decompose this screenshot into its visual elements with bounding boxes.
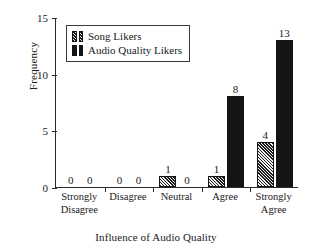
legend-label-song-likers: Song Likers bbox=[88, 30, 141, 43]
legend-swatch-icon-audio-quality-likers bbox=[72, 45, 84, 56]
y-tick-label: 5 bbox=[18, 125, 52, 137]
bar-value-label: 0 bbox=[62, 174, 79, 186]
legend-label-audio-quality-likers: Audio Quality Likers bbox=[88, 44, 182, 57]
bar bbox=[208, 176, 225, 187]
plot-area: 00001018413 Song Likers Audio Quality Li… bbox=[55, 18, 298, 188]
legend-swatch-icon-song-likers bbox=[72, 31, 84, 42]
x-tick-label: StronglyAgree bbox=[241, 191, 306, 216]
bar-value-label: 13 bbox=[276, 27, 293, 39]
y-tick-mark bbox=[52, 75, 57, 76]
bar-value-label: 0 bbox=[130, 174, 147, 186]
x-axis-tick-labels: StronglyDisagreeDisagreeNeutralAgreeStro… bbox=[55, 191, 298, 225]
bar-value-label: 8 bbox=[227, 83, 244, 95]
bar-value-label: 0 bbox=[178, 174, 195, 186]
y-tick-mark bbox=[52, 18, 57, 19]
y-tick-label: 10 bbox=[18, 69, 52, 81]
bar-group: 18 bbox=[202, 18, 251, 187]
bar-value-label: 1 bbox=[159, 163, 176, 175]
legend-item-song-likers: Song Likers bbox=[72, 29, 182, 43]
bar-group: 413 bbox=[250, 18, 299, 187]
y-tick-label: 15 bbox=[18, 12, 52, 24]
bar-value-label: 1 bbox=[208, 163, 225, 175]
bar bbox=[227, 96, 244, 187]
y-tick-mark bbox=[52, 131, 57, 132]
legend-item-audio-quality-likers: Audio Quality Likers bbox=[72, 43, 182, 57]
bar-value-label: 0 bbox=[81, 174, 98, 186]
chart-legend: Song Likers Audio Quality Likers bbox=[66, 25, 190, 62]
bar-chart-figure: Frequency 051015 00001018413 Song Likers… bbox=[0, 0, 312, 252]
x-axis-title: Influence of Audio Quality bbox=[0, 231, 312, 243]
bar bbox=[276, 40, 293, 187]
bar bbox=[257, 142, 274, 187]
bar-value-label: 0 bbox=[111, 174, 128, 186]
bar-value-label: 4 bbox=[257, 129, 274, 141]
y-tick-mark bbox=[52, 188, 57, 189]
bar bbox=[159, 176, 176, 187]
